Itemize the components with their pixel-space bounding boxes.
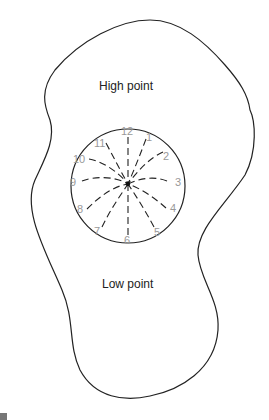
clock-numbers: 12 1 2 3 4 5 6 7 8 9 10 11 xyxy=(70,125,181,246)
corner-mark xyxy=(0,413,7,420)
clock-number-11: 11 xyxy=(94,137,105,149)
clock-number-7: 7 xyxy=(94,225,100,237)
low-point-label: Low point xyxy=(102,277,153,291)
clock-number-8: 8 xyxy=(77,203,83,215)
high-point-label: High point xyxy=(99,79,153,93)
clock-number-4: 4 xyxy=(170,202,176,214)
clock-lines xyxy=(82,137,167,235)
clock-number-10: 10 xyxy=(73,153,85,165)
clock-number-2: 2 xyxy=(163,150,169,162)
diagram-canvas: 12 1 2 3 4 5 6 7 8 9 10 11 xyxy=(0,0,269,420)
clock-number-12: 12 xyxy=(121,125,133,137)
clock-number-6: 6 xyxy=(124,234,130,246)
clock-number-3: 3 xyxy=(175,176,181,188)
clock-center-hub xyxy=(126,182,130,186)
region-outline xyxy=(31,20,254,398)
clock-number-5: 5 xyxy=(154,226,160,238)
clock-number-1: 1 xyxy=(146,131,152,143)
clock-number-9: 9 xyxy=(70,176,76,188)
